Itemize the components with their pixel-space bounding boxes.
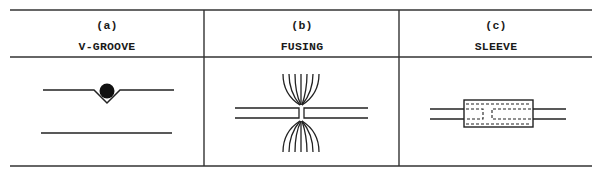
column-a-title: V-GROOVE [10, 41, 204, 53]
right-fiber [304, 108, 368, 118]
v-groove-diagram [41, 84, 174, 134]
sleeve-inner-bore [466, 104, 531, 124]
column-b-letter: (b) [205, 20, 399, 32]
column-a-letter: (a) [10, 20, 204, 32]
column-b-title: FUSING [205, 41, 399, 53]
fusing-diagram [235, 74, 368, 152]
splicing-methods-figure: (a) V-GROOVE (b) FUSING (c) SLEEVE [0, 0, 601, 171]
column-c-letter: (c) [399, 20, 593, 32]
sleeve-diagram [430, 100, 566, 127]
upper-arc-electrodes [283, 74, 319, 105]
fiber-in-groove-icon [100, 84, 115, 99]
left-fiber [235, 108, 299, 118]
lower-arc-electrodes [283, 121, 319, 152]
column-c-title: SLEEVE [399, 41, 593, 53]
